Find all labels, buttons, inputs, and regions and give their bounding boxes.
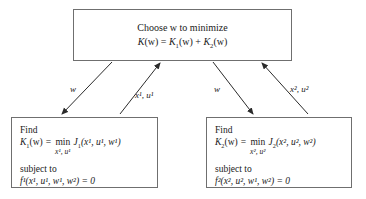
edge-label-top-to-right: w [214,84,220,94]
top-box-K1-arg: (w) [179,36,193,47]
right-box-objective: J2(x², u², w²) [269,136,316,148]
diagram-canvas: Choose w to minimize K(w) = K1(w) + K2(w… [0,0,366,199]
left-box-min-operator: min x¹, u¹ [55,136,71,157]
top-box-line1: Choose w to minimize [137,21,227,36]
edge-label-left-to-top: x¹, u¹ [135,90,153,100]
right-box-constraint: f²(x², u², w¹, w²) = 0 [215,175,351,187]
left-box-objective: J1(x¹, u¹, w¹) [74,136,121,148]
right-box-subject-label: subject to [215,163,351,175]
right-box-min-operator: min x², u² [250,136,266,157]
top-coordinator-box: Choose w to minimize K(w) = K1(w) + K2(w… [73,9,292,61]
arrow-left-to-top [120,63,160,114]
left-box-J-args: (x¹, u¹, w¹) [81,137,121,147]
left-box-lhs: K1(w) [20,136,43,148]
top-box-line2: K(w) = K1(w) + K2(w) [138,35,228,50]
right-box-lhs: K2(w) [215,136,238,148]
top-box-line1-text: Choose w to minimize [137,22,227,33]
left-box-constraint: f¹(x¹, u¹, w¹, w²) = 0 [20,175,157,187]
left-box-objective-row: K1(w) = min x¹, u¹ J1(x¹, u¹, w¹) [20,136,157,157]
right-box-content: Find K2(w) = min x², u² J2(x², u², w²) s… [207,118,351,187]
left-box-find-label: Find [20,124,157,136]
left-box-equals: = [46,136,51,148]
left-box-subject-label: subject to [20,163,157,175]
top-box-K2-arg: (w) [213,36,227,47]
right-box-equals: = [241,136,246,148]
top-box-plus: + [195,36,201,47]
edge-label-right-to-top: x², u² [290,84,308,94]
right-box-find-label: Find [215,124,351,136]
left-box-content: Find K1(w) = min x¹, u¹ J1(x¹, u¹, w¹) s… [12,118,157,187]
edge-label-top-to-left: w [70,84,76,94]
top-box-K1: K [169,36,176,47]
right-box-min-limits: x², u² [250,147,266,157]
right-box-objective-row: K2(w) = min x², u² J2(x², u², w²) [215,136,351,157]
top-box-equals: = [161,36,167,47]
left-box-min-limits: x¹, u¹ [55,147,71,157]
left-subproblem-box: Find K1(w) = min x¹, u¹ J1(x¹, u¹, w¹) s… [11,117,158,188]
left-box-K-arg: (w) [29,137,42,147]
top-box-K-arg: (w) [144,36,158,47]
right-box-J-args: (x², u², w²) [276,137,316,147]
right-box-K-arg: (w) [224,137,237,147]
right-subproblem-box: Find K2(w) = min x², u² J2(x², u², w²) s… [206,117,352,188]
